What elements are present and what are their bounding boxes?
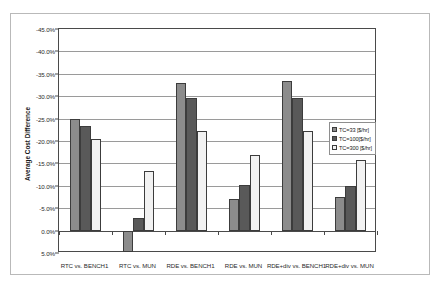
legend-item-label: TC=100[$/hr]	[339, 136, 371, 142]
legend-item-label: TC=300 [$/hr]	[339, 145, 372, 151]
y-axis-tick-label: -25.0%	[36, 115, 55, 122]
gridline	[59, 141, 375, 142]
bar	[80, 126, 91, 231]
y-axis-tick-mark	[55, 73, 59, 74]
y-axis-tick-label: -10.0%	[36, 182, 55, 189]
bar	[144, 171, 155, 231]
legend-swatch-icon	[332, 145, 337, 150]
legend-item: TC=100[$/hr]	[332, 134, 372, 143]
bar	[282, 81, 293, 230]
zero-line	[59, 231, 375, 232]
bar	[303, 131, 314, 231]
y-axis-tick-label: -40.0%	[36, 48, 55, 55]
bar	[239, 185, 250, 230]
y-axis-tick-label: 0.0%	[41, 227, 55, 234]
y-axis-tick-mark	[55, 96, 59, 97]
bar	[197, 131, 208, 231]
x-axis-category-label: RTC vs. BENCH1	[54, 262, 115, 270]
y-axis-tick-label: -15.0%	[36, 160, 55, 167]
y-axis-tick-mark	[55, 163, 59, 164]
bar	[292, 98, 303, 231]
y-axis-title: Average Cost Difference	[24, 107, 31, 181]
x-axis-category-label: RDE+div vs. BENCH1	[266, 262, 327, 270]
y-axis-tick-mark	[55, 253, 59, 254]
legend-item-label: TC=33 [$/hr]	[339, 127, 369, 133]
gridline	[59, 208, 375, 209]
x-axis-tick-mark	[271, 231, 272, 235]
y-axis-tick-mark	[55, 141, 59, 142]
bar	[335, 197, 346, 230]
x-axis-tick-mark	[218, 231, 219, 235]
y-axis-tick-label: -30.0%	[36, 93, 55, 100]
gridline	[59, 119, 375, 120]
y-axis-tick-mark	[55, 29, 59, 30]
y-axis-tick-mark	[55, 51, 59, 52]
y-axis-tick-mark	[55, 118, 59, 119]
y-axis-tick-mark	[55, 185, 59, 186]
x-axis-tick-mark	[112, 231, 113, 235]
y-axis-tick-label: -20.0%	[36, 138, 55, 145]
legend-item: TC=33 [$/hr]	[332, 125, 372, 134]
legend-swatch-icon	[332, 136, 337, 141]
x-axis-tick-mark	[165, 231, 166, 235]
y-axis-tick-label: -5.0%	[39, 205, 55, 212]
x-axis-tick-mark	[59, 231, 60, 235]
x-axis-category-label: RDE vs. BENCH1	[160, 262, 221, 270]
gridline	[59, 186, 375, 187]
y-axis-tick-mark	[55, 208, 59, 209]
bar	[123, 231, 134, 252]
gridline	[59, 163, 375, 164]
bar	[250, 155, 261, 231]
bar	[70, 119, 81, 230]
bar	[133, 218, 144, 231]
bar	[356, 160, 367, 231]
y-axis-tick-label: 5.0%	[41, 250, 55, 257]
gridline	[59, 74, 375, 75]
bar	[186, 98, 197, 231]
chart-frame: Average Cost Difference -45.0%-40.0%-35.…	[10, 13, 430, 275]
chart-legend: TC=33 [$/hr]TC=100[$/hr]TC=300 [$/hr]	[329, 122, 376, 155]
y-axis-tick-label: -45.0%	[36, 26, 55, 33]
bar	[345, 186, 356, 230]
x-axis-category-label: RDE+div vs. MUN	[319, 262, 380, 270]
x-axis-tick-mark	[377, 231, 378, 235]
gridline	[59, 51, 375, 52]
legend-swatch-icon	[332, 127, 337, 132]
bar	[91, 139, 102, 230]
x-axis-category-label: RTC vs. MUN	[107, 262, 168, 270]
x-axis-category-label: RDE vs. MUN	[213, 262, 274, 270]
y-axis-tick-label: -35.0%	[36, 70, 55, 77]
x-axis-tick-mark	[324, 231, 325, 235]
legend-item: TC=300 [$/hr]	[332, 143, 372, 152]
bar	[176, 83, 187, 231]
gridline	[59, 96, 375, 97]
bar	[229, 199, 240, 230]
